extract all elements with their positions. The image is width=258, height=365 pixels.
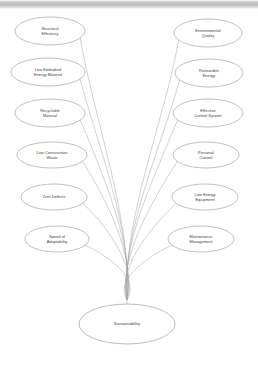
branch-curve-left-4 [82,161,129,300]
branch-curve-right-3 [126,119,178,300]
node-label-right-4-line2: Control [200,155,213,160]
root-label: Sustainability [114,321,141,326]
node-label-left-2-line2: Energy Material [34,72,62,77]
node-label-right-2-line2: Energy [203,73,216,78]
node-label-right-5-line2: Equipment [195,197,215,202]
node-label-right-1-line2: Quality [202,33,214,38]
node-label-left-4-line2: Waste [46,155,57,160]
node-group: StructuralEfficiencyLow EmbodiedEnergy M… [11,17,243,252]
branch-curve-left-2 [80,78,128,300]
branch-curve-right-1 [127,39,179,300]
sustainability-fan-diagram: StructuralEfficiencyLow EmbodiedEnergy M… [0,0,258,365]
node-label-left-1-line2: Efficiency [41,31,58,36]
branch-curve-left-5 [82,203,129,300]
branch-curve-right-6 [124,245,172,300]
node-label-left-6-line2: Adaptability [47,239,68,244]
node-label-right-3-line2: Control System [194,113,221,118]
diagram-page: StructuralEfficiencyLow EmbodiedEnergy M… [0,0,258,365]
root-node-group: Sustainability [79,300,175,344]
branch-curve-right-5 [125,203,177,300]
branch-curve-left-6 [85,245,131,300]
branch-curve-left-3 [80,119,128,300]
node-label-right-6-line2: Management [189,239,213,244]
branch-curve-group [80,37,180,300]
branch-curve-right-2 [126,79,179,300]
node-label-left-5: Zero Defects [43,194,66,199]
node-label-left-3-line2: Material [43,113,57,118]
